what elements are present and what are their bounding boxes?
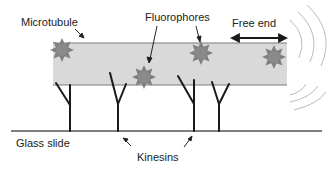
free-end-label: Free end [232,18,276,29]
fluorophores-label: Fluorophores [145,12,210,23]
fluorophore-icon [262,45,286,69]
fluorophore-icon [50,38,74,62]
motion-arcs-icon [290,5,326,110]
kinesin-1 [56,83,70,131]
microtubule-label: Microtubule [21,17,78,28]
microtubule [53,43,287,85]
fluorophore-icon [132,65,156,89]
double-arrow-icon [232,35,286,42]
fluorophore-icon [189,41,213,65]
kinesins-label: Kinesins [137,152,179,163]
kinesin-4 [212,82,229,131]
glass-slide-label: Glass slide [16,138,70,149]
